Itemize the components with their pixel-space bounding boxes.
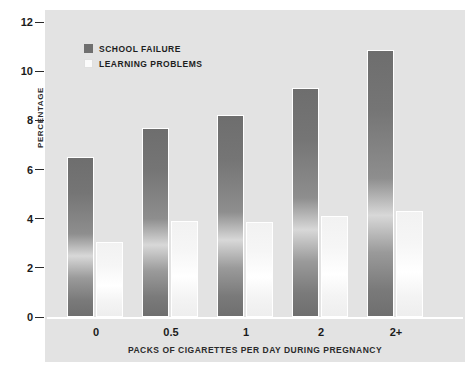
y-axis-tick-dash	[35, 169, 44, 170]
bar-school-failure	[67, 157, 94, 317]
bar-school-failure	[142, 128, 169, 317]
y-axis-tick-label: 4	[27, 212, 35, 226]
y-axis-tick-label: 0	[27, 310, 35, 324]
bar-learning-problems	[246, 222, 273, 317]
y-axis-tick-dash	[35, 317, 44, 318]
y-axis-tick-label: 8	[27, 113, 35, 127]
y-axis-tick-dash	[35, 22, 44, 23]
y-axis-tick: 12	[0, 15, 44, 29]
y-axis-tick-dash	[35, 267, 44, 268]
y-axis-tick-dash	[35, 218, 44, 219]
bar-school-failure	[367, 50, 394, 317]
y-axis-tick-label: 2	[27, 261, 35, 275]
bar-learning-problems	[171, 221, 198, 317]
bar-learning-problems	[96, 242, 123, 317]
x-axis-baseline	[47, 317, 463, 319]
y-axis-tick: 6	[0, 163, 44, 177]
y-axis-tick: 2	[0, 261, 44, 275]
y-axis-tick-label: 10	[21, 64, 35, 78]
x-axis-tick-label: 2+	[367, 326, 425, 338]
x-axis-tick-label: 1	[217, 326, 275, 338]
bar-area	[45, 10, 465, 362]
y-axis-title: PERCENTAGE	[36, 58, 45, 148]
chart-figure: 12 10 8 6 4 2 0 PERCENTAGE SCHOOL FAILUR…	[0, 0, 473, 371]
y-axis-tick: 0	[0, 310, 44, 324]
y-axis-tick-label: 12	[21, 15, 35, 29]
x-axis-tick-label: 2	[292, 326, 350, 338]
x-axis-tick-label: 0	[67, 326, 125, 338]
y-axis-tick: 4	[0, 212, 44, 226]
x-axis-title: PACKS OF CIGARETTES PER DAY DURING PREGN…	[45, 345, 465, 355]
bar-school-failure	[292, 88, 319, 317]
y-axis-tick-label: 6	[27, 163, 35, 177]
bar-learning-problems	[396, 211, 423, 317]
bar-learning-problems	[321, 216, 348, 317]
bar-school-failure	[217, 115, 244, 317]
x-axis-tick-label: 0.5	[142, 326, 200, 338]
